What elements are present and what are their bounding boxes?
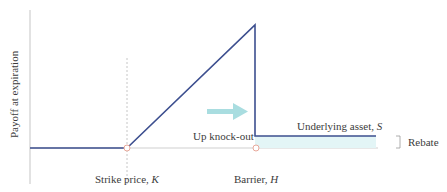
rebate-region [255,136,376,148]
barrier-label: Barrier, H [234,173,278,185]
strike-price-symbol: K [152,173,159,185]
up-knock-out-label: Up knock-out [193,130,254,142]
rebate-bracket [396,136,400,148]
underlying-asset-label: Underlying asset, S [297,120,382,132]
strike-marker [124,145,130,151]
rebate-label: Rebate [408,136,439,148]
barrier-symbol: H [270,173,278,185]
strike-price-label: Strike price, K [95,173,159,185]
barrier-marker [253,145,259,151]
payoff-diagram [0,0,447,192]
strike-price-text: Strike price, [95,173,152,185]
y-axis-label: Payoff at expiration [8,51,20,138]
barrier-text: Barrier, [234,173,270,185]
arrow-right-icon [207,103,248,120]
underlying-asset-symbol: S [377,120,383,132]
underlying-asset-text: Underlying asset, [297,120,377,132]
